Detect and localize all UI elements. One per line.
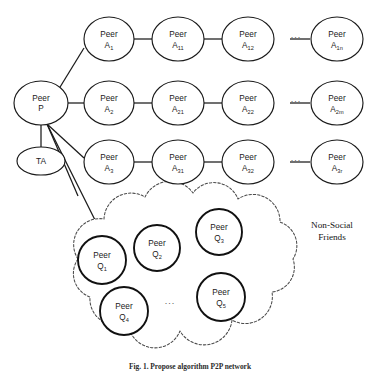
label-non-social-friends-line2: Friends xyxy=(318,232,346,242)
cloud-ellipsis: ... xyxy=(165,296,176,306)
node-peer-a1-shape xyxy=(84,17,134,61)
node-peer-a31-shape xyxy=(152,140,204,184)
node-ta-label: TA xyxy=(36,156,46,166)
node-peer-q4[interactable]: Peer Q4 xyxy=(100,287,148,335)
node-peer-p[interactable]: Peer P xyxy=(14,81,68,125)
node-peer-a1n[interactable]: Peer A1n xyxy=(311,17,363,61)
node-peer-q3[interactable]: Peer Q3 xyxy=(196,209,242,255)
node-peer-a32[interactable]: Peer A32 xyxy=(222,140,274,184)
node-peer-q1-line1: Peer xyxy=(93,251,111,260)
node-peer-a21-shape xyxy=(152,81,204,125)
node-peer-a2-line1: Peer xyxy=(100,94,118,103)
node-peer-p-line1: Peer xyxy=(32,94,50,103)
node-peer-a3[interactable]: Peer A3 xyxy=(84,140,134,184)
node-peer-p-shape xyxy=(14,81,68,125)
node-peer-a21[interactable]: Peer A21 xyxy=(152,81,204,125)
node-peer-a3r[interactable]: Peer A3r xyxy=(311,140,363,184)
node-peer-q2-line1: Peer xyxy=(148,239,166,248)
node-peer-a1n-line1: Peer xyxy=(328,30,346,39)
node-peer-a22-shape xyxy=(222,81,274,125)
node-peer-a22-line1: Peer xyxy=(239,94,257,103)
p2p-network-diagram: Peer P TA Peer A1 Peer A11 Peer A12 xyxy=(0,0,379,372)
node-peer-a3-line1: Peer xyxy=(100,153,118,162)
node-peer-a1n-shape xyxy=(311,17,363,61)
node-peer-q4-line1: Peer xyxy=(115,302,133,311)
node-peer-a1-line1: Peer xyxy=(100,30,118,39)
node-peer-q2[interactable]: Peer Q2 xyxy=(134,225,180,271)
row-a1-ellipsis: ... xyxy=(291,30,302,40)
figure-container: Peer P TA Peer A1 Peer A11 Peer A12 xyxy=(0,0,379,372)
figure-caption: Fig. 1. Propose algorithm P2P network xyxy=(129,362,252,371)
node-peer-q3-shape xyxy=(196,209,242,255)
node-peer-a2m-shape xyxy=(311,81,363,125)
node-peer-a2m[interactable]: Peer A2m xyxy=(311,81,363,125)
node-peer-q5[interactable]: Peer Q5 xyxy=(197,273,245,321)
edge-p-to-a1 xyxy=(57,48,84,92)
node-peer-a3-shape xyxy=(84,140,134,184)
node-peer-q5-shape xyxy=(197,273,245,321)
node-peer-a12[interactable]: Peer A12 xyxy=(222,17,274,61)
node-peer-a11[interactable]: Peer A11 xyxy=(152,17,204,61)
node-peer-a1[interactable]: Peer A1 xyxy=(84,17,134,61)
node-peer-a2m-line1: Peer xyxy=(328,94,346,103)
node-peer-q5-line1: Peer xyxy=(212,288,230,297)
node-peer-q3-line1: Peer xyxy=(210,223,228,232)
node-peer-a2[interactable]: Peer A2 xyxy=(84,81,134,125)
node-peer-a31-line1: Peer xyxy=(169,153,187,162)
node-peer-a31[interactable]: Peer A31 xyxy=(152,140,204,184)
node-peer-a22[interactable]: Peer A22 xyxy=(222,81,274,125)
node-peer-a3r-line1: Peer xyxy=(328,153,346,162)
node-peer-a3r-shape xyxy=(311,140,363,184)
node-peer-p-line2: P xyxy=(38,104,44,113)
edge-group-hub xyxy=(41,48,96,222)
node-peer-a21-line1: Peer xyxy=(169,94,187,103)
node-peer-q1-shape xyxy=(78,236,126,284)
label-non-social-friends-line1: Non-Social xyxy=(311,220,353,230)
node-peer-q1[interactable]: Peer Q1 xyxy=(78,236,126,284)
row-a3-ellipsis: ... xyxy=(291,153,302,163)
label-non-social-friends: Non-Social Friends xyxy=(311,220,353,242)
node-peer-a11-line1: Peer xyxy=(169,30,187,39)
node-peer-a12-line1: Peer xyxy=(239,30,257,39)
node-peer-q2-shape xyxy=(134,225,180,271)
node-peer-a32-shape xyxy=(222,140,274,184)
node-peer-a11-shape xyxy=(152,17,204,61)
row-a2-ellipsis: ... xyxy=(291,94,302,104)
node-peer-q4-shape xyxy=(100,287,148,335)
node-ta[interactable]: TA xyxy=(17,147,65,175)
node-peer-a32-line1: Peer xyxy=(239,153,257,162)
node-peer-a2-shape xyxy=(84,81,134,125)
node-peer-a12-shape xyxy=(222,17,274,61)
